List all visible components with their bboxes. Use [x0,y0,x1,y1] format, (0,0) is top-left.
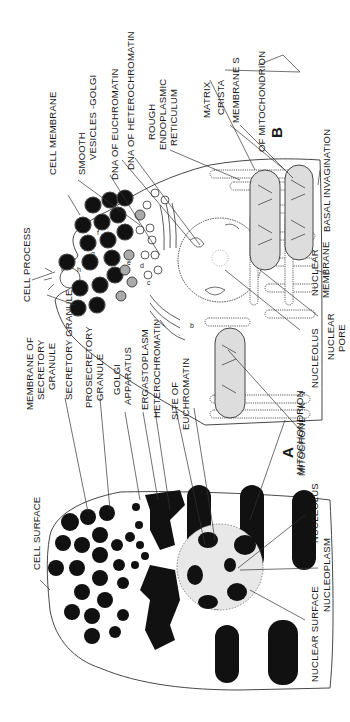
label-cell-process: CELL PROCESS [21,227,32,302]
svg-text:f: f [97,229,99,236]
label-matrix: MATRIX [201,81,212,118]
svg-text:c: c [147,279,151,286]
label-rough-1: ROUGH [146,104,157,140]
label-cell-membrane: CELL MEMBRANE [47,91,58,175]
svg-text:d: d [140,262,144,269]
label-crista: CRISTA [215,79,226,115]
nucleus-a [177,524,263,610]
svg-text:b: b [190,322,194,329]
label-site-of-2: EUCHROMATIN [180,358,191,430]
diagram-figure: CELL SURFACE SECRETORY GRANULE PROSECRET… [0,0,350,722]
label-basal-invagination: BASAL INVAGINATION [321,129,332,232]
svg-text:g: g [91,250,95,258]
label-nucleolus-a: NUCLEOLUS [309,483,320,543]
secretory-granules-a [48,503,149,644]
panel-a: CELL SURFACE SECRETORY GRANULE PROSECRET… [31,289,333,690]
label-vesicles-golgi: VESICLES -GOLGI [87,75,98,160]
nucleolus-b [212,250,228,266]
label-prosecretory-1: PROSECRETORY [83,326,94,408]
label-site-of-1: SITE OF [169,382,180,420]
label-nuclear-surface: NUCLEAR SURFACE [309,586,320,682]
label-rough-3: RETICULUM [168,89,179,146]
label-membrane-of-2: SECRETORY [35,339,46,400]
label-membranes: MEMBRANE S [230,57,241,123]
label-nuclear-membrane-2: MEMBRANE [320,242,331,299]
label-nuclear-pore-1: NUCLEAR [325,313,336,360]
label-nuclear-pore-2: PORE [336,324,347,352]
label-mitochondrion-b: MITOCHONDRION [294,390,305,475]
label-ergastoplasm: ERGASTOPLASM [139,329,150,410]
cell-diagram-svg: CELL SURFACE SECRETORY GRANULE PROSECRET… [0,0,350,722]
label-prosecretory-2: GRANULE [94,354,105,401]
label-nuclear-membrane-1: NUCLEAR [309,249,320,296]
label-dna-heterochromatin: DNA OF HETEROCHROMATIN [125,31,136,170]
svg-text:i: i [72,284,74,291]
label-cell-surface: CELL SURFACE [31,497,42,570]
label-nucleoplasm: NUCLEOPLASM [321,538,332,612]
label-nucleolus-b: NUCLEOLUS [309,328,320,388]
label-heterochromatin: HETEROCHROMATIN [151,319,162,418]
label-rough-2: ENDOPLASMIC [157,79,168,150]
label-dna-euchromatin: DNA OF EUCHROMATIN [109,68,120,180]
label-smooth: SMOOTH [76,132,87,175]
label-of-mitochondrion: OF MITOCHONDRION [256,51,267,152]
svg-text:h: h [77,266,81,273]
label-membrane-of-3: GRANULE [46,343,57,390]
svg-text:e: e [127,259,131,266]
label-membrane-of-1: MEMBRANE OF [24,337,35,410]
panel-label-b: B [268,127,285,138]
nucleolus-a [224,558,236,572]
